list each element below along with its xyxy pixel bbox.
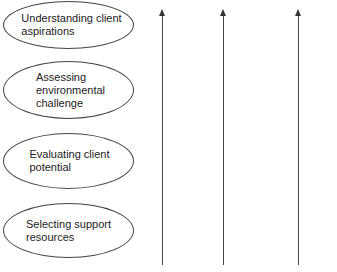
stage-ellipse-1: Understanding client aspirations [3,1,134,49]
stage-ellipse-3: Evaluating client potential [3,133,134,189]
stage-ellipse-4: Selecting support resources [3,203,134,258]
stage-label-2: Assessing environmental challenge [36,71,105,110]
stage-ellipse-2: Assessing environmental challenge [3,61,134,119]
stage-label-3: Evaluating client potential [29,148,109,174]
stage-label-1: Understanding client aspirations [21,12,121,38]
up-arrow-2 [223,11,224,265]
up-arrow-1 [162,11,163,265]
stage-label-4: Selecting support resources [26,218,111,244]
up-arrow-3 [298,11,299,265]
